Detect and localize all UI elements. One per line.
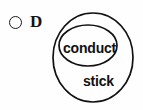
inner-set-label: conduct bbox=[63, 40, 116, 56]
circle-outline-icon[interactable] bbox=[9, 16, 22, 29]
figure-root: D conduct stick bbox=[0, 0, 143, 110]
option-letter-label: D bbox=[30, 13, 42, 31]
outer-set-label: stick bbox=[83, 73, 114, 89]
venn-diagram-graphic bbox=[46, 6, 143, 110]
